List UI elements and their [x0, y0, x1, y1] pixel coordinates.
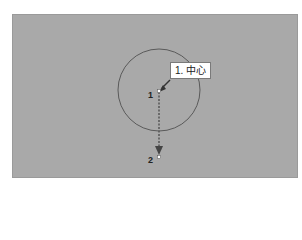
point-1-label: 1: [148, 90, 153, 100]
point-2-label: 2: [148, 155, 153, 165]
point-2-marker[interactable]: [158, 156, 161, 159]
arrow-down-icon: [155, 146, 163, 155]
point-1-marker[interactable]: [158, 90, 161, 93]
center-tooltip: 1. 中心: [170, 62, 211, 79]
